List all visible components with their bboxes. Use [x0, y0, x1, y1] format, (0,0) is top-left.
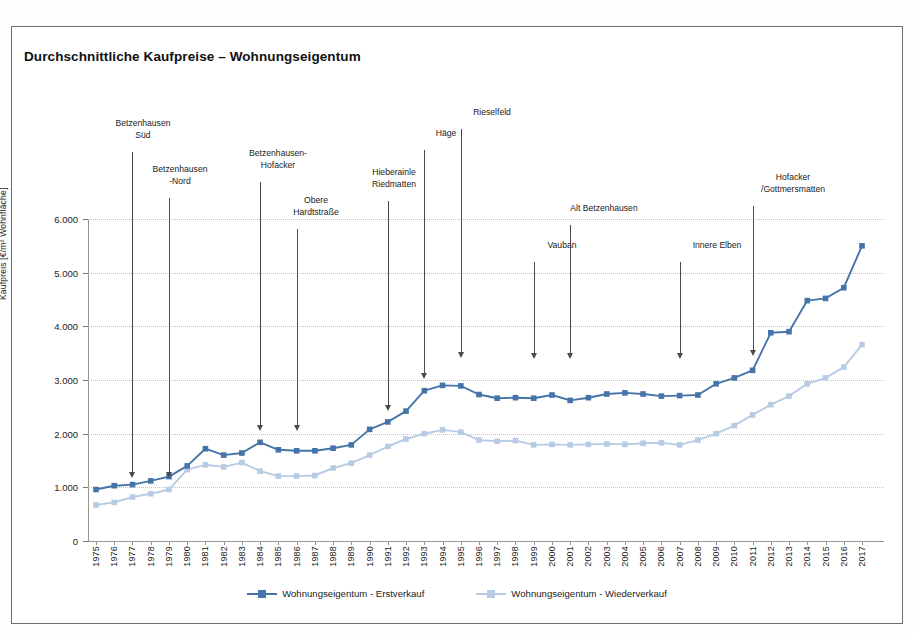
data-point — [403, 436, 409, 442]
data-point — [823, 375, 829, 381]
series-line — [96, 246, 862, 490]
data-point — [640, 391, 646, 397]
data-point — [695, 392, 701, 398]
data-point — [513, 438, 519, 444]
data-point — [221, 464, 227, 470]
data-point — [422, 388, 428, 394]
data-point — [349, 460, 355, 466]
annotation-label: Obere Hardtstraße — [256, 195, 376, 218]
data-point — [458, 429, 464, 435]
data-point — [567, 442, 573, 448]
data-point — [586, 442, 592, 448]
data-point — [422, 431, 428, 437]
data-point — [476, 437, 482, 443]
data-point — [659, 440, 665, 446]
data-point — [713, 381, 719, 387]
data-point — [111, 483, 117, 489]
data-point — [330, 465, 336, 471]
legend-item-2: Wohnungseigentum - Wiederverkauf — [476, 588, 667, 599]
data-point — [677, 393, 683, 399]
data-point — [604, 441, 610, 447]
annotation-arrow-line — [132, 152, 133, 473]
annotation-label: Hofacker /Gottmersmatten — [733, 172, 853, 195]
legend-swatch — [247, 593, 277, 595]
annotation-arrow-head — [385, 405, 391, 411]
annotation-arrow-head — [257, 425, 263, 431]
data-point — [148, 491, 154, 497]
data-point — [750, 368, 756, 374]
data-point — [859, 342, 865, 348]
data-point — [93, 502, 99, 508]
series-line — [96, 345, 862, 505]
data-point — [859, 243, 865, 249]
data-point — [768, 330, 774, 336]
data-point — [768, 402, 774, 408]
data-point — [130, 494, 136, 500]
annotation-arrow-head — [567, 353, 573, 359]
annotation-arrow-head — [677, 353, 683, 359]
data-point — [567, 398, 573, 404]
data-point — [622, 442, 628, 448]
data-point — [239, 450, 245, 456]
chart-legend: Wohnungseigentum - ErstverkaufWohnungsei… — [0, 588, 914, 599]
data-point — [239, 460, 245, 466]
annotation-label: Alt Betzenhausen — [544, 203, 664, 215]
screenshot-page: Durchschnittliche Kaufpreise – Wohnungse… — [0, 0, 914, 634]
data-point — [586, 395, 592, 401]
data-point — [148, 478, 154, 484]
data-point — [440, 427, 446, 433]
data-point — [841, 364, 847, 370]
annotation-label: Betzenhausen Süd — [83, 118, 203, 141]
data-point — [494, 438, 500, 444]
annotation-arrow-head — [458, 352, 464, 358]
data-point — [440, 383, 446, 389]
annotation-arrow-head — [750, 350, 756, 356]
data-point — [330, 445, 336, 451]
data-point — [130, 482, 136, 488]
annotation-label: Häge — [386, 128, 506, 140]
data-point — [166, 487, 172, 493]
annotation-arrow-line — [461, 129, 462, 353]
data-point — [221, 452, 227, 458]
data-point — [203, 446, 209, 452]
data-point — [257, 468, 263, 474]
annotation-arrow-line — [424, 150, 425, 374]
legend-label: Wohnungseigentum - Wiederverkauf — [511, 588, 667, 599]
series-layer — [0, 0, 914, 634]
data-point — [385, 419, 391, 425]
legend-swatch — [476, 593, 506, 595]
data-point — [549, 392, 555, 398]
data-point — [257, 440, 263, 446]
data-point — [184, 463, 190, 469]
data-point — [695, 437, 701, 443]
annotation-arrow-line — [297, 229, 298, 426]
data-point — [93, 487, 99, 493]
data-point — [403, 408, 409, 414]
data-point — [732, 375, 738, 381]
data-point — [659, 393, 665, 399]
annotation-arrow-line — [570, 225, 571, 354]
data-point — [367, 427, 373, 433]
annotation-arrow-head — [294, 425, 300, 431]
annotation-arrow-head — [531, 353, 537, 359]
data-point — [713, 431, 719, 437]
annotation-arrow-head — [421, 373, 427, 379]
annotation-arrow-line — [260, 182, 261, 426]
data-point — [294, 448, 300, 454]
annotation-arrow-line — [534, 262, 535, 354]
data-point — [549, 442, 555, 448]
data-point — [276, 447, 282, 453]
data-point — [786, 393, 792, 399]
data-point — [677, 442, 683, 448]
data-point — [111, 500, 117, 506]
data-point — [823, 296, 829, 302]
annotation-label: Vauban — [502, 240, 622, 252]
data-point — [458, 383, 464, 389]
data-point — [312, 473, 318, 479]
data-point — [604, 391, 610, 397]
data-point — [367, 452, 373, 458]
annotation-arrow-head — [166, 472, 172, 478]
line-chart: Kaufpreis [€/m² Wohnfläche] 01.0002.0003… — [0, 0, 914, 634]
data-point — [640, 441, 646, 447]
data-point — [531, 442, 537, 448]
